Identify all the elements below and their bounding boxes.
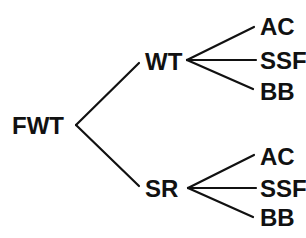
edge-sr-bb: [188, 188, 253, 217]
node-wt: WT: [145, 50, 182, 74]
node-sr-bb: BB: [260, 206, 295, 230]
edge-sr-ac: [188, 155, 254, 188]
node-sr: SR: [145, 177, 178, 201]
node-root-fwt: FWT: [12, 114, 64, 138]
node-wt-ac: AC: [260, 15, 295, 39]
edge-fwt-wt: [76, 63, 139, 125]
node-sr-ssf: SSF: [260, 177, 306, 201]
node-wt-ssf: SSF: [260, 49, 306, 73]
edge-fwt-sr: [76, 125, 139, 186]
node-wt-bb: BB: [260, 80, 295, 104]
tree-diagram: FWT WT SR AC SSF BB AC SSF BB: [0, 0, 306, 238]
node-sr-ac: AC: [260, 145, 295, 169]
edge-wt-ac: [187, 27, 254, 60]
edge-wt-bb: [187, 60, 253, 89]
